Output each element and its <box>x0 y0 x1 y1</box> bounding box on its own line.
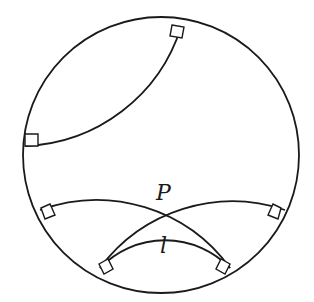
upper-left-geodesic <box>25 27 181 146</box>
geodesics-group <box>25 27 285 268</box>
right-angle-mark-top <box>170 25 184 38</box>
right-angle-mark-left <box>25 134 38 146</box>
right-angle-mark-bottom-left <box>99 259 113 274</box>
point-p-label: P <box>155 180 172 205</box>
geodesic-through-p-2 <box>100 201 285 268</box>
line-l-label: l <box>160 233 167 258</box>
poincare-disk-diagram: P l <box>0 0 314 302</box>
right-angle-marks-group <box>25 25 281 274</box>
right-angle-mark-bottom-right <box>216 259 230 274</box>
